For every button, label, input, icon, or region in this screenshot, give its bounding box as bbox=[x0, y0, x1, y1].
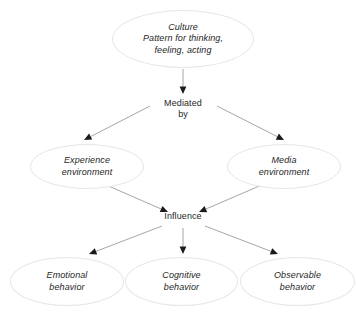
node-emotional_behavior: Emotional behavior bbox=[10, 257, 124, 306]
node-label-emotional_behavior: Emotional behavior bbox=[47, 270, 88, 293]
node-label-culture: Culture Pattern for thinking, feeling, a… bbox=[143, 22, 223, 57]
diagram-edge bbox=[180, 228, 187, 254]
node-influence: Influence bbox=[152, 209, 214, 225]
diagram-edge bbox=[205, 226, 278, 254]
diagram-canvas: Culture Pattern for thinking, feeling, a… bbox=[0, 0, 357, 320]
diagram-edge bbox=[84, 106, 150, 140]
node-label-influence: Influence bbox=[164, 211, 201, 223]
node-label-experience_environment: Experience environment bbox=[62, 155, 113, 178]
edge-line bbox=[217, 106, 277, 137]
node-observable_behavior: Observable behavior bbox=[240, 257, 355, 306]
diagram-edge bbox=[180, 69, 187, 94]
edge-line bbox=[91, 106, 150, 137]
node-label-media_environment: Media environment bbox=[259, 155, 310, 178]
node-culture: Culture Pattern for thinking, feeling, a… bbox=[112, 10, 254, 68]
edge-line bbox=[206, 184, 264, 209]
diagram-edge bbox=[89, 226, 162, 254]
arrowhead-icon bbox=[180, 247, 187, 255]
arrowhead-icon bbox=[89, 248, 97, 254]
arrowhead-icon bbox=[270, 248, 278, 254]
node-label-mediated_by: Mediated by bbox=[164, 98, 202, 121]
edge-line bbox=[205, 226, 271, 251]
diagram-edge bbox=[199, 184, 264, 212]
node-experience_environment: Experience environment bbox=[30, 144, 144, 189]
edge-line bbox=[104, 184, 161, 209]
edge-line bbox=[96, 226, 162, 251]
node-label-cognitive_behavior: Cognitive behavior bbox=[162, 270, 200, 293]
diagram-edge bbox=[104, 184, 168, 212]
node-mediated_by: Mediated by bbox=[150, 96, 216, 122]
arrowhead-icon bbox=[180, 87, 187, 95]
node-cognitive_behavior: Cognitive behavior bbox=[125, 257, 238, 306]
diagram-edge bbox=[217, 106, 284, 140]
node-label-observable_behavior: Observable behavior bbox=[274, 270, 321, 293]
node-media_environment: Media environment bbox=[227, 144, 341, 189]
